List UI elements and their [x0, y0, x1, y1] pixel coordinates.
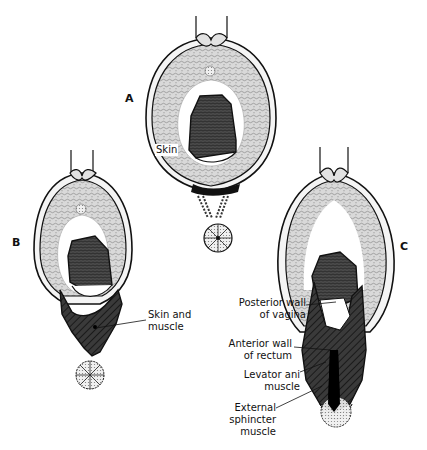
label-external-sphincter-line2: sphincter [228, 414, 276, 426]
label-posterior-wall-line2: of vagina [226, 309, 306, 321]
label-levator-ani-line2: muscle [236, 381, 300, 393]
label-external-sphincter-line1: External [228, 402, 276, 414]
label-posterior-wall-of-vagina: Posterior wall of vagina [226, 297, 306, 321]
label-skin-and-muscle-line2: muscle [148, 321, 191, 333]
perineal-laceration-figure: A B C Skin Skin and muscle Posterior wal… [0, 0, 427, 450]
label-skin-and-muscle: Skin and muscle [148, 309, 191, 333]
anatomy-illustration [0, 0, 427, 450]
label-levator-ani-line1: Levator ani [236, 369, 300, 381]
panel-letter-a: A [125, 92, 134, 105]
label-skin-and-muscle-line1: Skin and [148, 309, 191, 321]
label-external-sphincter-muscle: External sphincter muscle [228, 402, 276, 438]
label-anterior-wall-line2: of rectum [220, 350, 292, 362]
panel-a-drawing [146, 16, 276, 252]
label-levator-ani-muscle: Levator ani muscle [236, 369, 300, 393]
label-posterior-wall-line1: Posterior wall [226, 297, 306, 309]
panel-b-drawing [34, 150, 132, 389]
panel-letter-b: B [12, 236, 20, 249]
label-external-sphincter-line3: muscle [228, 426, 276, 438]
label-skin: Skin [155, 144, 178, 156]
label-anterior-wall-of-rectum: Anterior wall of rectum [220, 338, 292, 362]
label-anterior-wall-line1: Anterior wall [220, 338, 292, 350]
panel-letter-c: C [400, 240, 408, 253]
